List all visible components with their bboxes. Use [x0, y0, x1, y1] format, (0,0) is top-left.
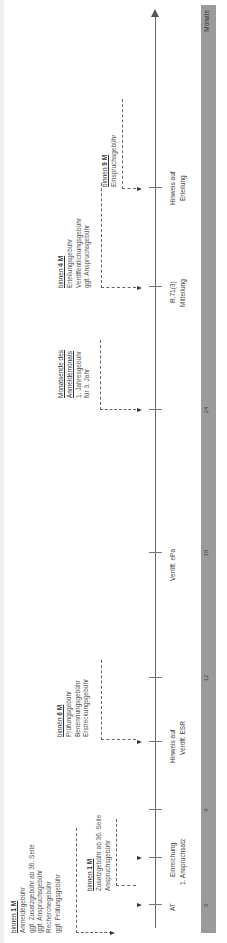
axis-label-0: 0: [203, 903, 209, 906]
deadline-heading: binnen 1 M: [86, 815, 95, 891]
connector-binnen-6m: [101, 660, 102, 740]
fee-line: für 3. Jahr: [83, 350, 92, 398]
event-label: Veröff. ESR: [178, 721, 188, 763]
event-veroeff-epa: Veröff. ePa: [168, 549, 178, 581]
connector-binnen-1m-a-v: [76, 932, 112, 933]
event-label: Hinweis auf: [168, 171, 178, 205]
event-label: Mitteilung: [178, 279, 188, 307]
connector-binnen-1m-a: [76, 828, 77, 933]
arrow-down-icon: [137, 904, 142, 908]
deadline-binnen-4m: binnen 4 M Erteilungsgebühr Veröffentlic…: [57, 218, 92, 288]
tick-r71: [149, 286, 162, 287]
axis-label-6: 6: [203, 808, 209, 811]
fee-line: Anspruchsgebühr: [104, 815, 113, 891]
tick-24: [149, 409, 162, 410]
fee-line: ggf. Zusatzgebühr ab 36. Seite: [28, 844, 37, 933]
arrow-down-icon: [137, 857, 142, 861]
fee-line: Benennungsgebühr: [74, 679, 83, 737]
connector-binnen-1m-b: [116, 819, 117, 886]
axis-arrow-icon: [151, 9, 159, 17]
tick-12: [149, 677, 162, 678]
arrow-down-icon: [137, 409, 142, 413]
deadline-monatsende: Monatsende des Anmeldemonats 1. Jahresge…: [57, 350, 92, 398]
arrow-down-icon: [137, 287, 142, 291]
deadline-heading: binnen 9 M: [101, 135, 110, 187]
event-label: AT: [168, 903, 178, 911]
connector-binnen-4m: [101, 183, 102, 288]
deadline-binnen-1m-b: binnen 1 M Zusatzgebühr ab 36. Seite Ans…: [86, 815, 112, 891]
event-label: Veröff. ePa: [168, 549, 178, 581]
connector-binnen-4m-v: [101, 287, 136, 288]
axis-unit-label: Monate: [203, 10, 210, 32]
timeline-axis: [155, 13, 156, 928]
fee-line: Recherchegebühr: [45, 844, 54, 933]
deadline-heading: binnen 6 M: [56, 679, 65, 737]
axis-label-18: 18: [203, 550, 209, 557]
event-label: Hinweis auf: [168, 721, 178, 763]
connector-binnen-6m-v: [101, 739, 136, 740]
event-hinweis-esr: Hinweis auf Veröff. ESR: [168, 721, 188, 763]
tick-6: [149, 809, 162, 810]
fee-line: Einspruchsgebühr: [110, 135, 119, 187]
tick-einreichung: [149, 857, 162, 858]
connector-binnen-1m-b-v: [116, 885, 136, 886]
fee-line: ggf. Prüfungsgebühr: [54, 844, 63, 933]
deadline-heading: binnen 1 M: [10, 844, 19, 933]
event-einreichung: Einreichung 1. Anspruchsatz: [168, 839, 188, 885]
fee-line: Prüfungsgebühr: [65, 679, 74, 737]
axis-label-24: 24: [203, 407, 209, 414]
deadline-heading: Monatsende des: [57, 350, 66, 398]
event-label: R.71(3): [168, 279, 178, 307]
fee-line: ggf. Anspruchsgebühr: [36, 844, 45, 933]
fee-line: Anmeldegebühr: [19, 844, 28, 933]
connector-binnen-9m: [122, 99, 123, 189]
axis-label-12: 12: [203, 675, 209, 682]
deadline-heading: binnen 4 M: [57, 218, 66, 288]
event-label: 1. Anspruchsatz: [178, 839, 188, 885]
fee-line: Zusatzgebühr ab 36. Seite: [95, 815, 104, 891]
fee-line: Veröffentlichungsgebühr: [75, 218, 84, 288]
deadline-binnen-1m-a: binnen 1 M Anmeldegebühr ggf. Zusatzgebü…: [10, 844, 63, 933]
arrow-down-icon: [110, 932, 115, 936]
deadline-binnen-6m: binnen 6 M Prüfungsgebühr Benennungsgebü…: [56, 679, 91, 737]
fee-line: Erteilungsgebühr: [66, 218, 75, 288]
arrow-down-icon: [137, 188, 142, 192]
connector-binnen-9m-v: [122, 188, 136, 189]
connector-monatsende: [100, 340, 101, 410]
connector-monatsende-v: [100, 409, 136, 410]
timeline-diagram: AT Einreichung 1. Anspruchsatz Hinweis a…: [0, 0, 227, 943]
page-edge: [0, 0, 4, 943]
event-label: Erteilung: [178, 171, 188, 205]
event-r71: R.71(3) Mitteilung: [168, 279, 188, 307]
fee-line: Erstreckungsgebühr: [82, 679, 91, 737]
fee-line: 1. Jahresgebühr: [75, 350, 84, 398]
tick-hinweis-esr: [149, 741, 162, 742]
deadline-heading: Anmeldemonats: [66, 350, 75, 398]
tick-at: [149, 904, 162, 905]
tick-18: [149, 552, 162, 553]
tick-hinweis-erteilung: [149, 187, 162, 188]
fee-line: ggf. Anspruchsgebühr: [83, 218, 92, 288]
event-label: Einreichung: [168, 839, 178, 885]
month-bar: [201, 5, 216, 933]
event-hinweis-erteilung: Hinweis auf Erteilung: [168, 171, 188, 205]
event-at: AT: [168, 903, 178, 911]
arrow-down-icon: [137, 741, 142, 745]
deadline-binnen-9m: binnen 9 M Einspruchsgebühr: [101, 135, 119, 187]
